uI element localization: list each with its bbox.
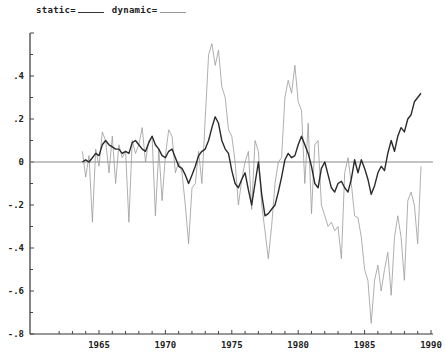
x-tick-label: 1965 xyxy=(88,340,110,350)
y-tick-label: 0 xyxy=(19,157,24,167)
line-chart: .4.20-.2-.4-.6-.819651970197519801985199… xyxy=(0,0,445,357)
y-tick-label: -.4 xyxy=(8,243,25,253)
y-tick-label: .2 xyxy=(13,114,24,124)
y-tick-label: -.8 xyxy=(8,329,24,339)
x-tick-label: 1975 xyxy=(221,340,243,350)
x-tick-label: 1980 xyxy=(287,340,309,350)
y-tick-label: .4 xyxy=(13,71,24,81)
chart-series xyxy=(82,44,421,324)
series-static-line xyxy=(82,93,421,216)
x-tick-label: 1985 xyxy=(354,340,376,350)
chart-axes: .4.20-.2-.4-.6-.819651970197519801985199… xyxy=(8,33,442,350)
x-tick-label: 1990 xyxy=(420,340,442,350)
x-tick-label: 1970 xyxy=(155,340,177,350)
series-dynamic-line xyxy=(82,44,421,324)
y-tick-label: -.6 xyxy=(8,286,24,296)
y-tick-label: -.2 xyxy=(8,200,24,210)
